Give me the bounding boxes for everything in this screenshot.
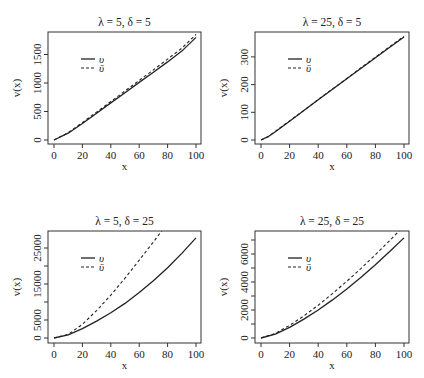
legend-label-vbar: ῡ — [99, 261, 104, 273]
chart-grid: λ = 5, δ = 5020406080100x050010001500v(x… — [0, 0, 424, 378]
x-tick-label: 60 — [134, 348, 146, 360]
x-tick-label: 80 — [162, 348, 174, 360]
y-tick-label: 4000 — [238, 271, 250, 294]
panel-title: λ = 5, δ = 25 — [95, 215, 154, 228]
x-tick-label: 80 — [370, 149, 382, 161]
plot-frame — [255, 32, 409, 144]
legend: υῡ — [288, 252, 311, 273]
x-tick-label: 60 — [341, 149, 353, 161]
y-axis-label: v(x) — [217, 278, 230, 297]
x-axis-label: x — [122, 160, 128, 172]
plot-frame — [48, 231, 201, 343]
x-axis-label: x — [122, 359, 128, 371]
y-axis-label: v(x) — [217, 79, 230, 98]
y-tick-label: 500 — [31, 103, 43, 120]
panel-title: λ = 25, δ = 25 — [300, 215, 364, 228]
y-tick-label: 1500 — [31, 43, 43, 66]
x-tick-label: 40 — [105, 348, 117, 360]
x-tick-label: 100 — [396, 149, 413, 161]
x-tick-label: 100 — [396, 348, 413, 360]
panel-1: λ = 5, δ = 5020406080100x050010001500v(x… — [10, 16, 205, 172]
series-v-line — [54, 37, 196, 140]
x-tick-label: 80 — [370, 348, 382, 360]
y-tick-label: 2000 — [238, 299, 250, 322]
y-tick-label: 0 — [31, 137, 43, 143]
x-tick-label: 100 — [188, 149, 205, 161]
y-axis-label: v(x) — [10, 79, 23, 98]
x-tick-label: 20 — [77, 149, 89, 161]
y-tick-label: 0 — [31, 335, 43, 341]
y-tick-label: 100 — [238, 104, 250, 121]
x-tick-label: 80 — [162, 149, 174, 161]
legend: υῡ — [81, 53, 104, 74]
x-tick-label: 60 — [134, 149, 146, 161]
legend-label-vbar: ῡ — [306, 261, 311, 273]
legend-label-vbar: ῡ — [306, 62, 311, 74]
panel-3: λ = 5, δ = 25020406080100x05000150002500… — [10, 185, 205, 371]
x-tick-label: 0 — [51, 149, 57, 161]
figure: λ = 5, δ = 5020406080100x050010001500v(x… — [0, 0, 424, 378]
x-axis-label: x — [329, 160, 335, 172]
y-tick-label: 1000 — [31, 72, 43, 95]
legend: υῡ — [81, 252, 104, 273]
x-tick-label: 40 — [313, 348, 325, 360]
x-tick-label: 40 — [105, 149, 117, 161]
x-tick-label: 0 — [51, 348, 57, 360]
y-axis-label: v(x) — [10, 278, 23, 297]
x-tick-label: 20 — [284, 149, 296, 161]
series-vbar-line — [261, 226, 404, 338]
x-axis-label: x — [329, 359, 335, 371]
panel-title: λ = 25, δ = 5 — [303, 16, 362, 29]
panel-title: λ = 5, δ = 5 — [98, 16, 151, 29]
x-tick-label: 40 — [313, 149, 325, 161]
legend-label-vbar: ῡ — [99, 62, 104, 74]
x-tick-label: 20 — [284, 348, 296, 360]
x-tick-label: 0 — [258, 348, 264, 360]
plot-frame — [48, 32, 201, 144]
x-tick-label: 100 — [188, 348, 205, 360]
plot-frame — [255, 231, 409, 343]
series-v-line — [261, 238, 404, 338]
y-tick-label: 15000 — [31, 270, 43, 298]
y-tick-label: 300 — [238, 48, 250, 65]
y-tick-label: 5000 — [31, 309, 43, 332]
x-tick-label: 0 — [258, 149, 264, 161]
series-v-line — [54, 238, 196, 338]
series-vbar-line — [54, 35, 196, 141]
legend: υῡ — [288, 53, 311, 74]
y-tick-label: 6000 — [238, 243, 250, 266]
panel-4: λ = 25, δ = 25020406080100x0200040006000… — [217, 215, 413, 371]
panel-2: λ = 25, δ = 5020406080100x0100200300v(x)… — [217, 16, 413, 172]
x-tick-label: 20 — [77, 348, 89, 360]
x-tick-label: 60 — [341, 348, 353, 360]
y-tick-label: 0 — [238, 335, 250, 341]
y-tick-label: 200 — [238, 76, 250, 93]
series-vbar-line — [261, 36, 404, 140]
y-tick-label: 25000 — [31, 234, 43, 262]
y-tick-label: 0 — [238, 137, 250, 143]
